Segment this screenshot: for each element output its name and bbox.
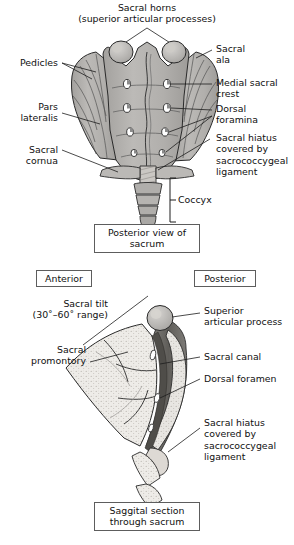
orientation-posterior: Posterior <box>194 270 256 287</box>
label-pedicles: Pedicles <box>0 57 58 68</box>
label-sacral-ala: Sacral ala <box>216 43 294 66</box>
label-medial-sacral-crest: Medial sacral crest <box>216 77 294 100</box>
label-dorsal-foramina: Dorsal foramina <box>216 103 294 126</box>
label-sacral-canal: Sacral canal <box>204 351 294 362</box>
label-pars-lateralis: Pars lateralis <box>0 101 58 124</box>
label-coccyx: Coccyx <box>178 194 238 205</box>
label-superior-articular-process: Superior articular process <box>204 305 294 328</box>
label-sacral-hiatus-sagittal: Sacral hiatus covered by sacrococcygeal … <box>204 417 292 463</box>
coccyx <box>134 183 162 231</box>
caption-posterior-view: Posterior view of sacrum <box>94 224 200 253</box>
orientation-anterior: Anterior <box>36 270 92 287</box>
label-dorsal-foramen: Dorsal foramen <box>204 373 294 384</box>
label-sacral-cornua: Sacral cornua <box>0 144 58 167</box>
caption-saggital-section: Saggital section through sacrum <box>94 502 200 531</box>
coccyx-bracket <box>170 178 176 222</box>
superior-articular-process-knob <box>147 306 173 331</box>
sagittal-section-body <box>66 306 187 530</box>
sacral-hiatus <box>140 166 156 184</box>
label-sacral-hiatus: Sacral hiatus covered by sacrococcygeal … <box>216 132 294 178</box>
label-sacral-promontory: Sacral promontory <box>0 344 86 367</box>
label-sacral-tilt: Sacral tilt (30˚–60˚ range) <box>0 298 108 321</box>
